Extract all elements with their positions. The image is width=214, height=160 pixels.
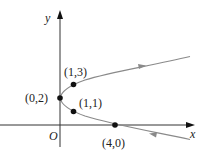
origin-label: O xyxy=(49,130,58,142)
point-0-2 xyxy=(57,95,63,101)
point-4-0 xyxy=(112,122,118,128)
x-axis-label: x xyxy=(190,128,195,140)
point-label-1-3: (1,3) xyxy=(64,66,87,78)
point-1-3 xyxy=(71,82,77,88)
point-label-0-2: (0,2) xyxy=(25,92,48,104)
point-label-1-1: (1,1) xyxy=(79,97,102,109)
point-label-4-0: (4,0) xyxy=(102,137,125,149)
point-1-1 xyxy=(71,109,77,115)
diagram-canvas: y x O (0,2) (1,3) (1,1) (4,0) xyxy=(0,0,214,160)
y-axis-label: y xyxy=(45,12,50,24)
curve-arrow-left-icon xyxy=(149,133,157,138)
y-axis-arrow-icon xyxy=(57,10,63,19)
